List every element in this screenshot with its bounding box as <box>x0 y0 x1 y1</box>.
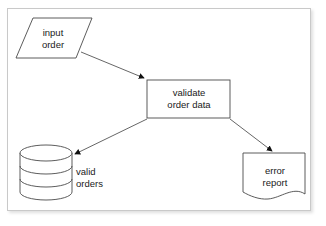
edge-validate-to-store <box>75 119 147 154</box>
diagram-canvas: input order validate order data valid or… <box>0 0 326 226</box>
diagram-graphics <box>0 0 326 226</box>
node-validate-order-data <box>147 80 230 118</box>
node-valid-orders <box>20 145 72 200</box>
edge-validate-to-report <box>230 119 272 151</box>
node-input-order <box>16 18 92 58</box>
node-error-report <box>243 153 305 199</box>
edge-input-to-validate <box>81 52 144 78</box>
